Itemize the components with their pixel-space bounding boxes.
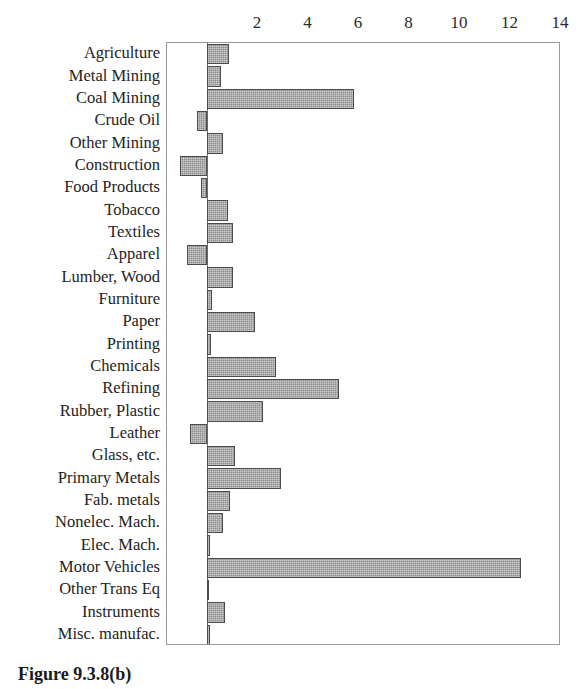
category-label: Elec. Mach. [81,536,160,553]
bar [207,357,275,378]
category-label: Chemicals [90,358,160,375]
figure-caption: Figure 9.3.8(b) [18,664,418,689]
category-label: Other Mining [70,134,160,151]
bar [207,44,228,65]
category-label: Textiles [108,224,160,241]
bar [180,156,208,177]
category-label: Paper [122,313,160,330]
bar [207,379,338,400]
bar [201,178,207,199]
bar [207,312,255,333]
x-tick-label-8: 8 [404,14,413,31]
category-label: Leather [110,425,160,442]
bar [207,580,209,601]
category-label: Construction [75,157,160,174]
category-label: Lumber, Wood [61,268,160,285]
bar [207,602,225,623]
x-tick-label-14: 14 [552,14,569,31]
category-label: Furniture [99,291,160,308]
bar [190,424,208,445]
bar [207,200,227,221]
bar [207,66,221,87]
category-label: Metal Mining [69,67,160,84]
bar [207,89,353,110]
bar [207,290,212,311]
bar [207,491,230,512]
category-label: Motor Vehicles [59,559,160,576]
bar [207,446,235,467]
bar [207,558,520,579]
bar [207,513,222,534]
x-tick-label-2: 2 [253,14,262,31]
category-label: Tobacco [104,201,160,218]
bar [187,245,207,266]
bar [207,535,210,556]
category-label: Primary Metals [58,469,160,486]
category-label: Printing [107,335,160,352]
x-tick-label-6: 6 [354,14,363,31]
category-label: Instruments [82,603,160,620]
bar [207,223,232,244]
category-label: Rubber, Plastic [60,402,160,419]
category-label: Agriculture [84,45,160,62]
bar [207,625,210,645]
x-tick-label-4: 4 [303,14,312,31]
y-axis-category-labels: AgricultureMetal MiningCoal MiningCrude … [0,42,163,645]
category-label: Fab. metals [84,492,160,509]
category-label: Glass, etc. [92,447,160,464]
bar [197,111,207,132]
x-tick-label-12: 12 [501,14,518,31]
category-label: Misc. manufac. [58,626,160,643]
category-label: Crude Oil [94,112,160,129]
category-label: Food Products [64,179,160,196]
category-label: Other Trans Eq [59,581,160,598]
category-label: Refining [102,380,160,397]
bar [207,133,222,154]
bar [207,334,211,355]
x-tick-label-10: 10 [450,14,467,31]
category-label: Apparel [107,246,160,263]
bar [207,267,232,288]
plot-area [166,42,560,645]
category-label: Coal Mining [76,90,160,107]
x-axis-ticks: 2468101214 [0,0,585,42]
figure-container: 2468101214 AgricultureMetal MiningCoal M… [0,0,585,689]
category-label: Nonelec. Mach. [55,514,160,531]
bar [207,401,263,422]
bar [207,468,280,489]
